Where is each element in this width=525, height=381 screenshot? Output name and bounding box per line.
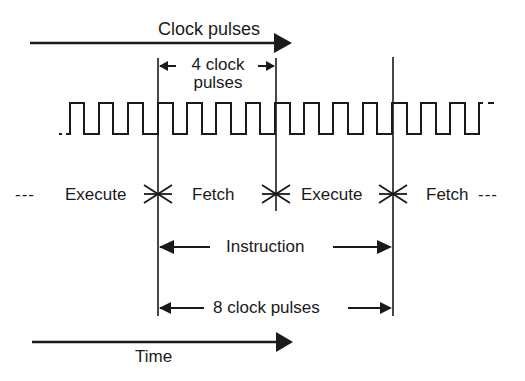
clock-pulses-label: Clock pulses (158, 19, 260, 39)
left-dashes: --- (15, 185, 35, 205)
phase-fetch-2: Fetch (426, 185, 469, 205)
four-pulses-label-line2: pulses (178, 73, 258, 93)
instruction-label: Instruction (226, 237, 304, 257)
time-label: Time (135, 347, 172, 367)
phase-execute-1: Execute (65, 185, 126, 205)
phase-fetch-1: Fetch (192, 185, 235, 205)
four-pulses-label-line1: 4 clock (178, 55, 258, 75)
eight-pulses-label: 8 clock pulses (213, 298, 320, 318)
phase-execute-2: Execute (301, 185, 362, 205)
right-dashes: --- (478, 185, 498, 205)
